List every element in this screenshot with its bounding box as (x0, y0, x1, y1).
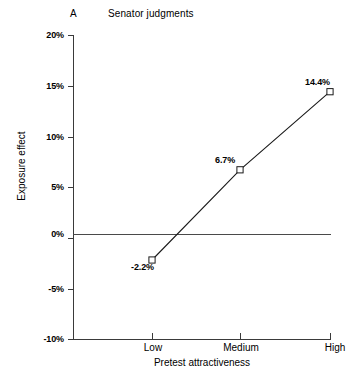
point-label-high: 14.4% (305, 77, 330, 87)
data-point-high (327, 89, 333, 95)
data-point-medium (237, 167, 243, 173)
chart-figure: A Senator judgments 20% 15% 10% 5% 0% -5… (0, 0, 351, 384)
point-label-low: -2.2% (131, 262, 154, 272)
series-line (152, 92, 330, 260)
plot-area (0, 0, 351, 384)
point-label-medium: 6.7% (215, 155, 235, 165)
series-markers (149, 89, 333, 264)
